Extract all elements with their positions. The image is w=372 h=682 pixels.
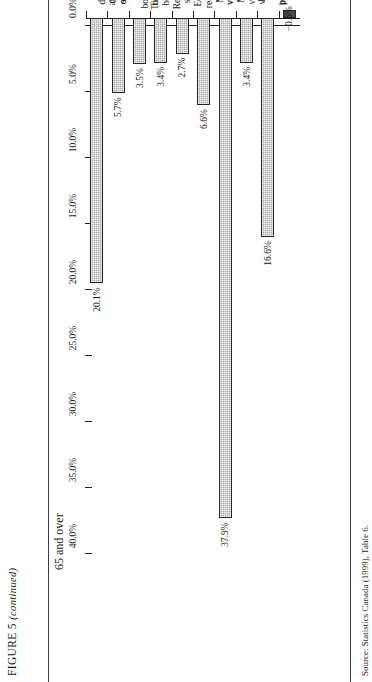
bar-value-label: 3.4% — [156, 67, 166, 87]
bar-value-label: 16.6% — [263, 241, 273, 266]
value-tick-label: 40.0% — [68, 524, 78, 549]
value-tick — [85, 355, 92, 356]
value-tick-label: 35.0% — [68, 458, 78, 483]
bar — [154, 18, 167, 63]
bar — [112, 18, 125, 93]
bar — [261, 18, 274, 237]
chart-title: 65 and over — [52, 513, 67, 570]
bar-value-label: 20.1% — [92, 287, 102, 312]
value-tick-label: 5.0% — [68, 64, 78, 84]
value-tick-label: 25.0% — [68, 326, 78, 351]
value-tick-label: 15.0% — [68, 194, 78, 219]
figure-caption-main: FIGURE 5 — [6, 623, 18, 676]
value-tick — [85, 421, 92, 422]
category-label: Personal debt — [279, 0, 300, 14]
plot-area: 40.0%35.0%30.0%25.0%20.0%15.0%10.0%5.0%0… — [86, 18, 300, 612]
category-label: Total stock holdings — [150, 0, 171, 14]
bar — [176, 18, 189, 54]
bar-value-label: 6.6% — [199, 109, 209, 129]
bar — [133, 18, 146, 64]
bar — [240, 18, 253, 63]
source-note: Source: Statistics Canada (1999), Table … — [360, 525, 370, 676]
value-tick — [85, 487, 92, 488]
bar-value-label: 3.5% — [135, 68, 145, 88]
value-tick-label: 30.0% — [68, 392, 78, 417]
bar-value-label: 2.7% — [177, 58, 187, 78]
figure-caption: FIGURE 5 (continued) — [6, 568, 18, 676]
value-tick-label: 10.0% — [68, 128, 78, 153]
bar — [197, 18, 210, 105]
value-tick-label: 0.0% — [68, 0, 78, 18]
bar — [90, 18, 103, 283]
bar-value-label: 5.7% — [113, 97, 123, 117]
value-tick — [85, 553, 92, 554]
figure-caption-note: (continued) — [7, 568, 18, 620]
figure-page: FIGURE 5 (continued) 65 and over 40.0%35… — [0, 0, 372, 682]
bar-value-label: 37.9% — [220, 522, 230, 547]
bar — [219, 18, 232, 518]
rotated-figure-canvas: FIGURE 5 (continued) 65 and over 40.0%35… — [0, 0, 372, 682]
bar-value-label: 3.4% — [242, 67, 252, 87]
value-tick-label: 20.0% — [68, 260, 78, 285]
